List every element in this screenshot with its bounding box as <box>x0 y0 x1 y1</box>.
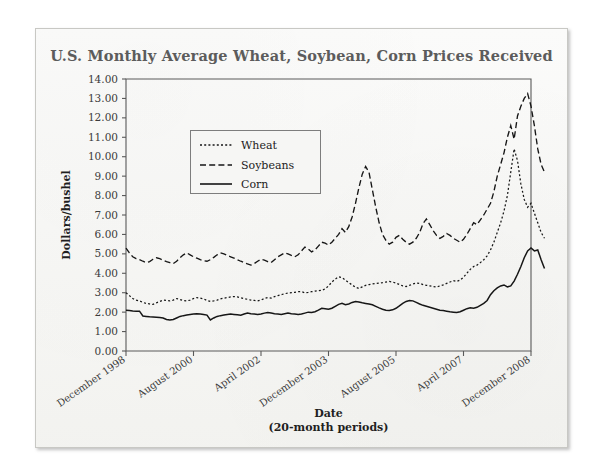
series-line-wheat <box>126 149 545 304</box>
y-tick-label: 0.00 <box>95 345 118 357</box>
wheat-line-swatch-icon <box>199 140 233 150</box>
plot-area: 14.0013.0012.0011.0010.009.008.007.006.0… <box>36 29 569 449</box>
corn-line-swatch-icon <box>199 179 233 189</box>
y-tick-label: 10.00 <box>88 150 118 162</box>
y-axis-title-text: Dollars/bushel <box>60 170 73 259</box>
x-tick-label: December 1998 <box>55 354 127 409</box>
y-tick-label: 1.00 <box>95 325 118 337</box>
x-tick-label: December 2008 <box>460 354 532 409</box>
legend-item-soybeans: Soybeans <box>199 155 294 175</box>
y-tick-label: 6.00 <box>95 228 118 240</box>
y-tick-label: 14.00 <box>88 73 118 85</box>
x-tick-label: August 2005 <box>337 354 397 400</box>
series-lines <box>126 94 545 320</box>
chart-legend: Wheat Soybeans Corn <box>190 130 321 194</box>
x-tick-label: December 2003 <box>257 354 329 409</box>
legend-label-wheat: Wheat <box>241 139 277 152</box>
line-chart-svg: 14.0013.0012.0011.0010.009.008.007.006.0… <box>36 29 569 449</box>
y-tick-label: 5.00 <box>95 247 118 259</box>
y-tick-label: 9.00 <box>95 170 118 182</box>
x-tick-label: April 2007 <box>414 354 465 394</box>
series-line-soybeans <box>126 94 545 266</box>
y-tick-label: 4.00 <box>95 267 118 279</box>
legend-item-wheat: Wheat <box>199 135 277 155</box>
series-line-corn <box>126 248 545 320</box>
x-axis-title-text: Date <box>314 407 343 420</box>
y-axis-title: Dollars/bushel <box>60 170 73 259</box>
x-tick-label: August 2000 <box>135 354 195 400</box>
y-tick-label: 2.00 <box>95 306 118 318</box>
legend-label-soybeans: Soybeans <box>241 159 294 172</box>
x-tick-label: April 2002 <box>211 354 262 394</box>
y-axis-ticks: 14.0013.0012.0011.0010.009.008.007.006.0… <box>88 73 126 357</box>
y-tick-label: 11.00 <box>88 131 118 143</box>
plot-frame <box>126 79 531 351</box>
axis-frame <box>126 79 531 351</box>
y-tick-label: 8.00 <box>95 189 118 201</box>
x-axis-title: Date(20-month periods) <box>268 407 388 434</box>
soybeans-line-swatch-icon <box>199 160 233 170</box>
screenshot-page: U.S. Monthly Average Wheat, Soybean, Cor… <box>0 0 601 474</box>
chart-card: U.S. Monthly Average Wheat, Soybean, Cor… <box>35 28 568 448</box>
legend-item-corn: Corn <box>199 174 268 194</box>
legend-label-corn: Corn <box>241 178 268 191</box>
y-tick-label: 12.00 <box>88 111 118 123</box>
y-tick-label: 7.00 <box>95 209 118 221</box>
x-axis-subtitle-text: (20-month periods) <box>268 421 388 434</box>
x-axis-ticks: December 1998August 2000April 2002Decemb… <box>55 351 532 409</box>
y-tick-label: 3.00 <box>95 286 118 298</box>
y-tick-label: 13.00 <box>88 92 118 104</box>
